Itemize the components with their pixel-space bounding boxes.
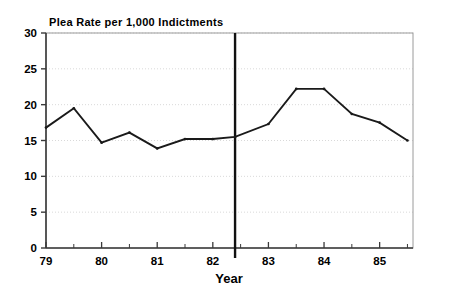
chart-title: Plea Rate per 1,000 Indictments — [49, 16, 223, 28]
x-tick-label-84: 84 — [318, 255, 331, 267]
data-point-83.5 — [295, 88, 298, 91]
y-tick-label-5: 5 — [31, 206, 38, 218]
data-point-80 — [100, 141, 103, 144]
y-tick-label-10: 10 — [24, 170, 37, 182]
data-point-82 — [211, 138, 214, 141]
data-point-84.5 — [350, 113, 353, 116]
data-point-84 — [323, 88, 326, 91]
x-tick-label-81: 81 — [151, 255, 164, 267]
x-tick-label-83: 83 — [262, 255, 275, 267]
y-tick-label-20: 20 — [24, 99, 37, 111]
chart-container: 051015202530 79808182838485 Plea Rate pe… — [0, 0, 450, 293]
data-point-79.5 — [72, 107, 75, 110]
chart-background — [0, 0, 450, 293]
x-axis-label: Year — [215, 271, 242, 286]
data-point-82.4 — [234, 136, 237, 139]
y-tick-label-25: 25 — [24, 63, 37, 75]
x-tick-label-82: 82 — [206, 255, 219, 267]
data-point-85.5 — [406, 139, 409, 142]
y-tick-label-15: 15 — [24, 135, 37, 147]
data-point-81 — [156, 147, 159, 150]
data-point-83 — [267, 123, 270, 126]
x-tick-label-80: 80 — [95, 255, 108, 267]
y-tick-label-30: 30 — [24, 27, 37, 39]
data-point-80.5 — [128, 131, 131, 134]
data-point-81.5 — [184, 138, 187, 141]
data-point-79 — [45, 126, 48, 129]
x-tick-label-79: 79 — [40, 255, 53, 267]
plea-rate-line-chart: 051015202530 79808182838485 Plea Rate pe… — [0, 0, 450, 293]
data-point-85 — [378, 121, 381, 124]
y-tick-label-0: 0 — [31, 242, 37, 254]
x-tick-label-85: 85 — [373, 255, 386, 267]
